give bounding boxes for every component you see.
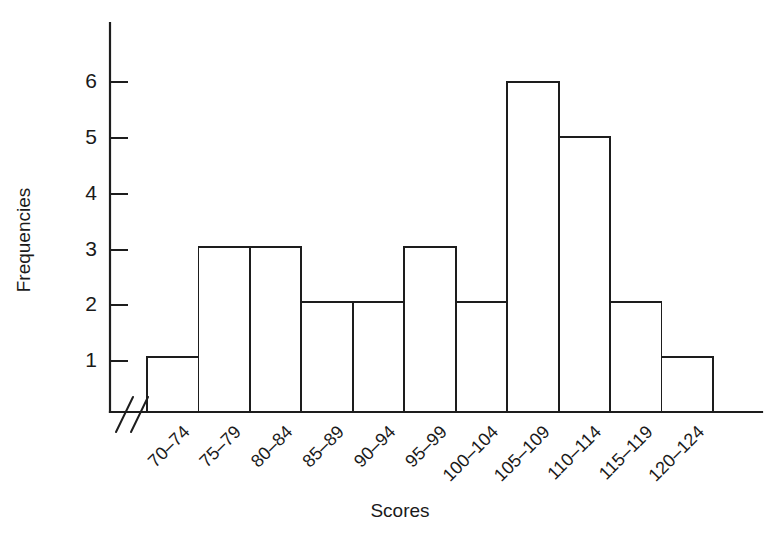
y-tick-label-3: 3 bbox=[85, 237, 97, 260]
y-tick-label-4: 4 bbox=[85, 181, 97, 204]
histogram-figure: 6 5 4 3 2 1 70–7475–7980–8485–8990–9495–… bbox=[0, 0, 776, 547]
histogram-svg: 6 5 4 3 2 1 70–7475–7980–8485–8990–9495–… bbox=[0, 0, 776, 547]
x-axis-title: Scores bbox=[370, 500, 429, 521]
y-tick-label-6: 6 bbox=[85, 69, 97, 92]
y-axis-title: Frequencies bbox=[13, 188, 34, 293]
y-tick-label-2: 2 bbox=[85, 292, 97, 315]
y-tick-label-1: 1 bbox=[85, 348, 97, 371]
y-tick-label-5: 5 bbox=[85, 125, 97, 148]
